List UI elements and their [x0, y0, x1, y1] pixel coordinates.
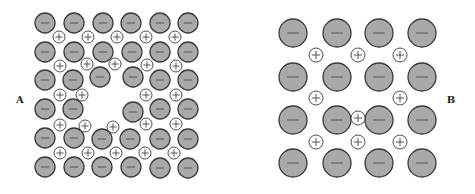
anion	[121, 157, 141, 177]
anion	[178, 99, 198, 119]
cation	[53, 31, 65, 43]
anion	[279, 63, 307, 91]
cation	[309, 91, 323, 105]
anion	[365, 149, 393, 177]
anion	[90, 67, 110, 87]
cation	[82, 147, 94, 159]
cation	[54, 60, 66, 72]
anion	[178, 13, 198, 33]
anion	[93, 13, 113, 33]
cation	[351, 111, 365, 125]
anion	[35, 13, 55, 33]
cation	[110, 147, 122, 159]
cation	[139, 147, 151, 159]
cation	[54, 119, 66, 131]
anion	[63, 70, 83, 90]
cation	[109, 58, 121, 70]
anion	[64, 13, 84, 33]
anion	[150, 158, 170, 178]
anion	[178, 129, 198, 149]
anion	[35, 99, 55, 119]
anion	[35, 157, 55, 177]
anion	[123, 67, 143, 87]
anion	[64, 157, 84, 177]
cation	[170, 60, 182, 72]
cation	[82, 31, 94, 43]
anion	[408, 19, 436, 47]
anion	[150, 129, 170, 149]
anion	[35, 70, 55, 90]
anion	[35, 128, 55, 148]
cation	[79, 120, 91, 132]
anion	[150, 70, 170, 90]
anion	[120, 129, 140, 149]
anion	[365, 106, 393, 134]
cation	[393, 48, 407, 62]
panel-a-label: A	[15, 94, 24, 105]
cation	[54, 147, 66, 159]
anion	[408, 106, 436, 134]
cation	[169, 31, 181, 43]
anion	[323, 149, 351, 177]
cation	[393, 135, 407, 149]
anion	[279, 149, 307, 177]
anion	[63, 99, 83, 119]
anion	[178, 158, 198, 178]
anion	[122, 42, 142, 62]
anion	[123, 102, 143, 122]
anion	[279, 19, 307, 47]
anion	[92, 157, 112, 177]
cation	[309, 135, 323, 149]
cation	[76, 89, 88, 101]
ionic-crystal-defects-diagram: A B	[0, 0, 475, 194]
cation	[170, 89, 182, 101]
anion	[408, 63, 436, 91]
panel-a-dislocated-lattice	[35, 13, 198, 178]
anion	[178, 42, 198, 62]
cation	[170, 118, 182, 130]
panel-b-label: B	[447, 94, 455, 105]
anion	[64, 42, 84, 62]
anion	[323, 19, 351, 47]
anion	[150, 99, 170, 119]
anion	[150, 42, 170, 62]
cation	[54, 89, 66, 101]
anion	[279, 106, 307, 134]
anion	[121, 13, 141, 33]
cation	[81, 58, 93, 70]
cation	[111, 31, 123, 43]
cation	[393, 91, 407, 105]
cation	[141, 59, 153, 71]
anion	[365, 19, 393, 47]
panel-b-interstitial-lattice	[279, 19, 436, 177]
cation	[309, 48, 323, 62]
anion	[93, 42, 113, 62]
anion	[178, 70, 198, 90]
cation	[140, 89, 152, 101]
cation	[168, 147, 180, 159]
anion	[150, 13, 170, 33]
cation	[351, 48, 365, 62]
cation	[351, 135, 365, 149]
cation	[140, 31, 152, 43]
anion	[35, 42, 55, 62]
cation	[107, 121, 119, 133]
anion	[323, 63, 351, 91]
anion	[365, 63, 393, 91]
anion	[323, 106, 351, 134]
anion	[408, 149, 436, 177]
cation	[140, 118, 152, 130]
